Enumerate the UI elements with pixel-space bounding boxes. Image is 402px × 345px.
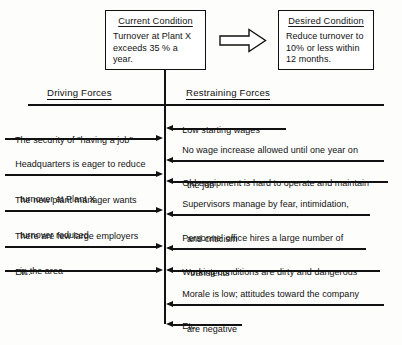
driving-forces-heading: Driving Forces bbox=[47, 87, 112, 98]
driving-force-arrow-head bbox=[156, 267, 163, 273]
driving-force-label: Etc. bbox=[5, 256, 31, 290]
restraining-force-arrow-head bbox=[166, 301, 173, 307]
block-arrow-right-icon bbox=[219, 28, 267, 53]
current-condition-line-1: Turnover at Plant X bbox=[113, 31, 191, 41]
driving-force-arrow-head bbox=[156, 207, 163, 213]
restraining-force-arrow-shaft bbox=[172, 324, 242, 326]
desired-condition-line-2: 10% or less within bbox=[286, 43, 359, 53]
restraining-force-label: Morale is low; attitudes toward the comp… bbox=[172, 278, 359, 345]
current-condition-title: Current Condition bbox=[113, 16, 198, 26]
driving-force-arrow-shaft bbox=[5, 246, 157, 248]
restraining-force-label: Etc. bbox=[172, 310, 198, 344]
current-condition-line-2: exceeds 35 % a year. bbox=[113, 43, 178, 65]
desired-condition-box: Desired Condition Reduce turnover to 10%… bbox=[278, 10, 374, 70]
restraining-force-arrow-head bbox=[166, 267, 173, 273]
header-separator-rule bbox=[28, 104, 384, 106]
restraining-force-arrow-shaft bbox=[172, 214, 370, 216]
restraining-force-arrow-head bbox=[166, 157, 173, 163]
driving-force-arrow-head bbox=[156, 171, 163, 177]
restraining-force-arrow-shaft bbox=[172, 181, 388, 183]
desired-condition-body: Reduce turnover to 10% or less within 12… bbox=[286, 31, 366, 66]
driving-force-arrow-head bbox=[156, 243, 163, 249]
restraining-force-arrow-shaft bbox=[172, 304, 384, 306]
restraining-force-arrow-shaft bbox=[172, 270, 380, 272]
driving-force-arrow-shaft bbox=[5, 138, 157, 140]
driving-force-arrow-head bbox=[156, 135, 163, 141]
desired-condition-line-3: 12 months. bbox=[286, 54, 331, 64]
restraining-force-arrow-shaft bbox=[172, 248, 366, 250]
force-field-diagram: Current Condition Turnover at Plant X ex… bbox=[0, 0, 402, 345]
restraining-force-arrow-head bbox=[166, 211, 173, 217]
restraining-force-arrow-head bbox=[166, 178, 173, 184]
restraining-force-arrow-head bbox=[166, 245, 173, 251]
driving-force-arrow-shaft bbox=[5, 270, 157, 272]
center-divider-line bbox=[164, 70, 166, 324]
current-condition-box: Current Condition Turnover at Plant X ex… bbox=[105, 10, 206, 70]
restraining-forces-heading: Restraining Forces bbox=[186, 87, 270, 98]
restraining-force-arrow-head bbox=[166, 321, 173, 327]
restraining-force-arrow-shaft bbox=[172, 160, 384, 162]
current-condition-body: Turnover at Plant X exceeds 35 % a year. bbox=[113, 31, 198, 66]
driving-force-arrow-shaft bbox=[5, 174, 157, 176]
restraining-force-arrow-shaft bbox=[172, 128, 286, 130]
restraining-force-arrow-head bbox=[166, 125, 173, 131]
desired-condition-title: Desired Condition bbox=[286, 16, 366, 26]
driving-force-arrow-shaft bbox=[5, 210, 157, 212]
desired-condition-line-1: Reduce turnover to bbox=[286, 31, 363, 41]
